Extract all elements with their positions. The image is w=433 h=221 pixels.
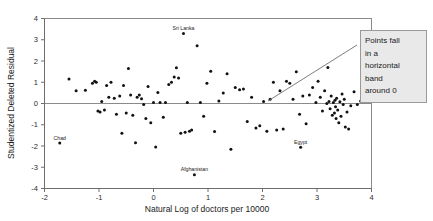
data-point — [349, 104, 352, 107]
callout-line: around 0 — [365, 86, 397, 95]
data-point — [68, 78, 71, 81]
data-point — [299, 146, 302, 149]
data-point — [331, 114, 334, 117]
data-point — [164, 101, 167, 104]
data-point — [234, 86, 237, 89]
point-label: Chad — [54, 135, 67, 141]
y-tick-label: 4 — [34, 14, 38, 23]
data-point — [278, 89, 281, 92]
data-point — [162, 116, 165, 119]
data-point — [205, 82, 208, 85]
data-point — [325, 102, 328, 105]
data-point — [213, 130, 216, 133]
data-point — [193, 173, 196, 176]
y-tick-label: -3 — [31, 163, 38, 172]
data-point — [182, 32, 185, 35]
data-point — [329, 107, 332, 110]
data-point — [327, 100, 330, 103]
data-point — [113, 97, 116, 100]
data-point — [91, 82, 94, 85]
data-point — [196, 44, 199, 47]
data-point — [122, 84, 125, 87]
y-axis-title: Studentized Deleted Residual — [6, 47, 16, 159]
data-point — [154, 146, 157, 149]
data-point — [222, 91, 225, 94]
data-point — [147, 85, 150, 88]
x-tick-label: 3 — [315, 193, 319, 202]
data-point — [131, 114, 134, 117]
y-tick-label: 3 — [34, 35, 38, 44]
y-tick-label: -2 — [31, 142, 38, 151]
data-point — [339, 115, 342, 118]
data-point — [229, 148, 232, 151]
data-point — [152, 101, 155, 104]
data-point — [107, 96, 110, 99]
data-point — [338, 100, 341, 103]
data-point — [335, 117, 338, 120]
data-point — [144, 117, 147, 120]
data-point — [190, 129, 193, 132]
data-point-group — [58, 32, 362, 176]
callout-line: Points fall — [365, 36, 400, 45]
data-point — [202, 115, 205, 118]
x-tick-label: 1 — [206, 193, 210, 202]
data-point — [323, 89, 326, 92]
y-tick-label: -1 — [31, 120, 38, 129]
callout-text-group: Points fallin ahorizontalbandaround 0 — [365, 36, 400, 95]
data-point — [186, 101, 189, 104]
data-point — [118, 95, 121, 98]
scatter-plot-figure: 43210-1-2-3-4 -2-101234 Sri LankaChadAfg… — [0, 0, 433, 221]
data-point — [75, 89, 78, 92]
data-point — [238, 88, 241, 91]
callout-line: in a — [365, 49, 378, 58]
data-point — [295, 70, 298, 73]
callout-line: horizontal — [365, 61, 400, 70]
callout-line: band — [365, 74, 383, 83]
data-point — [142, 103, 145, 106]
data-point — [301, 95, 304, 98]
data-point — [321, 109, 324, 112]
data-point — [156, 91, 159, 94]
data-point — [140, 97, 143, 100]
data-point — [84, 89, 87, 92]
data-point — [282, 128, 285, 131]
y-tick-label: 0 — [34, 99, 38, 108]
data-point — [343, 98, 346, 101]
data-point — [272, 81, 275, 84]
data-point — [134, 141, 137, 144]
data-point — [298, 113, 301, 116]
data-point — [175, 66, 178, 69]
data-point — [115, 113, 118, 116]
data-point — [136, 96, 139, 99]
data-point — [275, 129, 278, 132]
data-point — [333, 112, 336, 115]
data-point — [99, 111, 102, 114]
data-point — [209, 70, 212, 73]
data-point — [170, 81, 173, 84]
data-point — [184, 131, 187, 134]
data-point — [335, 97, 338, 100]
x-tick-label: -2 — [41, 193, 48, 202]
data-point — [127, 67, 130, 70]
data-point — [353, 90, 356, 93]
data-point — [285, 80, 288, 83]
data-point — [258, 124, 261, 127]
y-tick-label: 2 — [34, 57, 38, 66]
point-label: Afghanistan — [181, 166, 209, 172]
data-point — [242, 88, 245, 91]
data-point — [129, 94, 132, 97]
data-point — [342, 103, 345, 106]
data-point — [105, 84, 108, 87]
y-axis-ticks: 43210-1-2-3-4 — [31, 14, 44, 193]
data-point — [317, 80, 320, 83]
data-point — [314, 101, 317, 104]
data-point — [109, 81, 112, 84]
data-point — [226, 72, 229, 75]
x-tick-label: 2 — [260, 193, 264, 202]
x-tick-label: 4 — [369, 193, 373, 202]
data-point — [217, 99, 220, 102]
data-point — [330, 95, 333, 98]
data-point — [337, 121, 340, 124]
data-point — [250, 96, 253, 99]
data-point — [246, 120, 249, 123]
